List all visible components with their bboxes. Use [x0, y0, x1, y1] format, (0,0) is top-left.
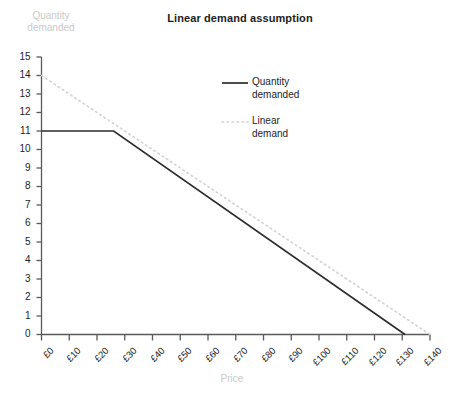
series-line [42, 76, 431, 335]
y-tick-label: 7 [7, 199, 31, 210]
legend-entry-line1: Linear [252, 115, 342, 128]
legend-entry-line2: demand [252, 128, 342, 141]
y-tick-label: 11 [7, 125, 31, 136]
axes [42, 57, 431, 335]
y-tick-label: 4 [7, 254, 31, 265]
y-tick-label: 14 [7, 69, 31, 80]
legend-swatches [222, 83, 248, 122]
y-tick-label: 5 [7, 236, 31, 247]
legend-entry-line2: demanded [252, 89, 342, 102]
plot-area [0, 0, 449, 395]
y-tick-label: 2 [7, 291, 31, 302]
linear-demand-chart: Linear demand assumption Quantity demand… [0, 0, 449, 395]
y-tick-marks [37, 57, 42, 335]
y-tick-label: 1 [7, 310, 31, 321]
y-tick-label: 3 [7, 273, 31, 284]
y-tick-label: 0 [7, 328, 31, 339]
data-series [42, 76, 431, 335]
legend-entry-label: Quantitydemanded [252, 76, 342, 101]
y-tick-label: 12 [7, 106, 31, 117]
y-tick-label: 13 [7, 88, 31, 99]
series-line [42, 131, 406, 335]
y-tick-label: 8 [7, 180, 31, 191]
y-tick-label: 6 [7, 217, 31, 228]
y-tick-label: 10 [7, 143, 31, 154]
legend-entry-line1: Quantity [252, 76, 342, 89]
x-tick-marks [42, 335, 431, 341]
y-tick-label: 9 [7, 162, 31, 173]
legend-entry-label: Lineardemand [252, 115, 342, 140]
y-tick-label: 15 [7, 51, 31, 62]
